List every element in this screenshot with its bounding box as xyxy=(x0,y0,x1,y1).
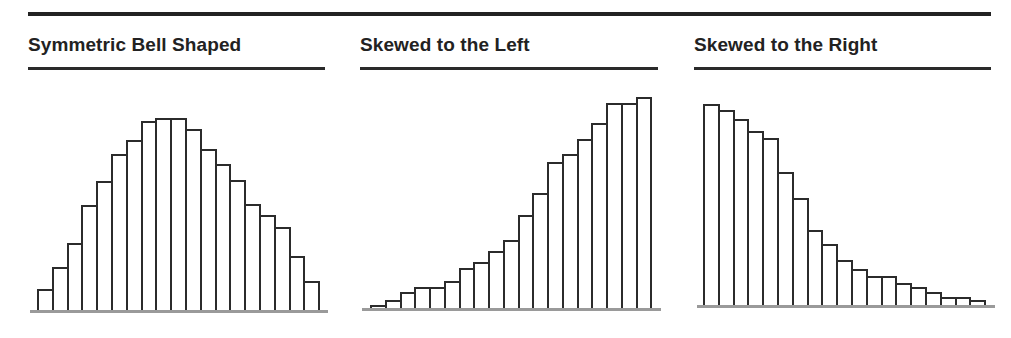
histogram-plot xyxy=(694,80,996,307)
panel-title: Skewed to the Right xyxy=(694,34,877,56)
histogram-plot xyxy=(360,80,662,309)
panel-skewed-right: Skewed to the Right xyxy=(694,0,996,338)
title-underline xyxy=(360,67,658,70)
title-underline xyxy=(28,67,325,70)
histogram-plot xyxy=(28,80,328,311)
title-underline xyxy=(694,67,991,70)
panel-title: Symmetric Bell Shaped xyxy=(28,34,241,56)
histogram-bar xyxy=(303,281,320,311)
panel-title: Skewed to the Left xyxy=(360,34,530,56)
panel-symmetric-bell: Symmetric Bell Shaped xyxy=(28,0,328,338)
x-axis-baseline xyxy=(362,308,661,311)
x-axis-baseline xyxy=(30,310,328,313)
panel-skewed-left: Skewed to the Left xyxy=(360,0,662,338)
histogram-bar xyxy=(636,97,653,309)
x-axis-baseline xyxy=(697,305,995,308)
